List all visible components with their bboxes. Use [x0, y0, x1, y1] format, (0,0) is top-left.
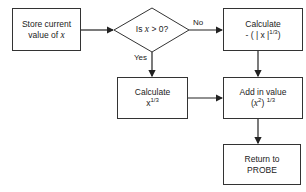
decision-label: Is x > 0?: [118, 24, 186, 34]
calc-neg-line2: - ( | x |1/3): [246, 30, 281, 41]
calculate-cube-root-box: Calculate x1/3: [117, 77, 188, 119]
return-to-probe-box: Return to PROBE: [223, 144, 301, 185]
calc-pos-line2: x1/3: [146, 98, 159, 109]
no-edge-label: No: [193, 18, 203, 27]
store-current-value-box: Store current value of x: [12, 8, 81, 51]
add-in-value-box: Add in value (x2) 1/3: [223, 77, 303, 119]
calculate-negative-root-box: Calculate - ( | x |1/3): [223, 8, 303, 51]
return-line1: Return to: [245, 154, 280, 165]
add-line2: (x2) 1/3: [251, 98, 275, 109]
add-line1: Add in value: [240, 87, 287, 98]
yes-edge-label: Yes: [134, 53, 147, 62]
store-line2: value of x: [28, 30, 64, 41]
return-line2: PROBE: [247, 165, 277, 176]
store-line1: Store current: [22, 19, 71, 30]
